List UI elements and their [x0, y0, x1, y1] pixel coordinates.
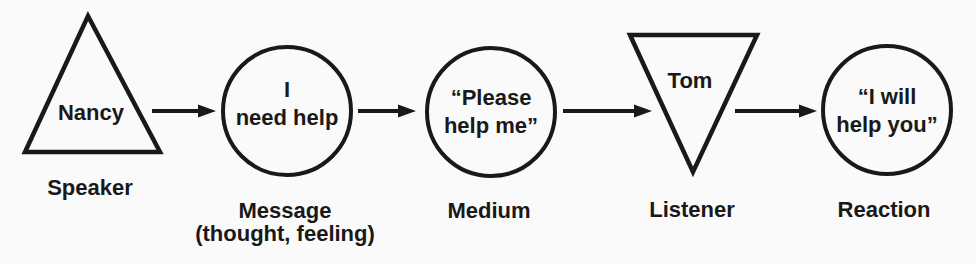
medium-node-line1: “Please: [444, 84, 538, 112]
speaker-triangle-icon: [25, 16, 160, 152]
message-label: Message (thought, feeling): [195, 199, 375, 245]
arrow-message-to-medium-icon: [358, 105, 416, 118]
message-node-text: I need help: [236, 76, 339, 132]
listener-label: Listener: [649, 198, 735, 221]
medium-node-text: “Please help me”: [444, 84, 538, 140]
speaker-label: Speaker: [47, 176, 133, 199]
reaction-label: Reaction: [838, 198, 931, 221]
message-node-line1: I: [236, 76, 339, 104]
arrow-medium-to-listener-icon: [563, 105, 652, 118]
medium-label: Medium: [447, 199, 530, 222]
message-label-line2: (thought, feeling): [195, 222, 375, 245]
reaction-node-line1: “I will: [836, 83, 937, 111]
communication-process-diagram: Nancy Speaker I need help Message (thoug…: [0, 0, 976, 264]
arrow-listener-to-reaction-icon: [735, 105, 817, 118]
speaker-node-text: Nancy: [58, 99, 124, 127]
medium-node-line2: help me”: [444, 112, 538, 140]
listener-node-text: Tom: [668, 67, 713, 95]
listener-triangle-icon: [630, 35, 757, 172]
message-label-line1: Message: [195, 199, 375, 222]
reaction-node-text: “I will help you”: [836, 83, 937, 139]
arrow-speaker-to-message-icon: [152, 105, 216, 118]
reaction-node-line2: help you”: [836, 111, 937, 139]
message-node-line2: need help: [236, 104, 339, 132]
